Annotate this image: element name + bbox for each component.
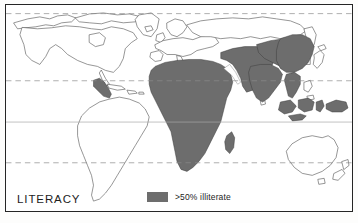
literacy-map-figure: .coast { fill: #ffffff; stroke: #555555;… xyxy=(0,0,358,223)
legend-color-swatch xyxy=(147,192,168,202)
map-frame: .coast { fill: #ffffff; stroke: #555555;… xyxy=(5,4,353,212)
legend-label: >50% illiterate xyxy=(175,192,231,202)
world-map-canvas: .coast { fill: #ffffff; stroke: #555555;… xyxy=(6,5,352,211)
island-puerto-rico xyxy=(139,92,144,94)
shaded-borneo xyxy=(298,98,314,112)
page-title: LITERACY xyxy=(17,193,80,205)
island-tasmania xyxy=(318,178,325,184)
map-legend: >50% illiterate xyxy=(147,192,231,202)
